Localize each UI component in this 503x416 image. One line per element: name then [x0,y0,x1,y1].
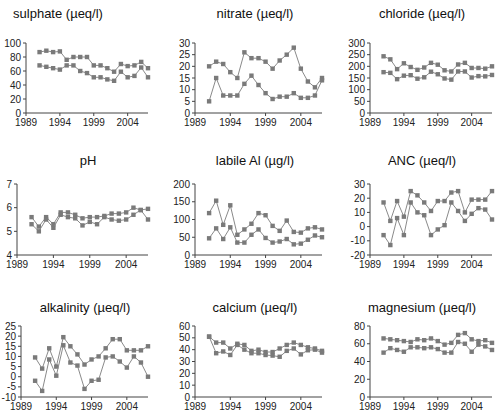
data-point-marker [442,350,446,354]
data-point-marker [442,342,446,346]
x-tick-label: 1989 [359,401,382,412]
data-point-marker [415,337,419,341]
axes: 0204060801989199419992004 [354,321,492,413]
data-point-marker [402,350,406,354]
data-point-marker [456,340,460,344]
data-point-marker [381,350,385,354]
data-point-marker [449,350,453,354]
data-point-marker [408,345,412,349]
data-point-marker [408,340,412,344]
data-point-marker [388,346,392,350]
x-tick-label: 1999 [427,401,450,412]
data-point-marker [395,348,399,352]
data-point-marker [483,338,487,342]
y-tick-label: 20 [354,374,366,385]
data-point-marker [436,347,440,351]
x-tick-label: 2004 [461,401,484,412]
y-tick-label: 80 [354,321,366,332]
y-tick-label: 40 [354,356,366,367]
data-point-marker [476,342,480,346]
line-chart-magnesium: 0204060801989199419992004 [0,0,503,416]
data-point-marker [429,345,433,349]
data-point-marker [469,350,473,354]
data-point-marker [422,346,426,350]
x-tick-label: 1994 [393,401,416,412]
data-point-marker [388,337,392,341]
data-point-marker [456,333,460,337]
data-point-marker [463,331,467,335]
y-tick-label: 60 [354,338,366,349]
data-point-marker [490,348,494,352]
data-point-marker [490,341,494,345]
data-point-marker [463,342,467,346]
data-point-marker [469,337,473,341]
data-point-marker [422,338,426,342]
data-point-marker [395,338,399,342]
data-point-marker [429,336,433,340]
data-point-marker [415,345,419,349]
data-point-marker [483,344,487,348]
data-point-marker [381,336,385,340]
data-point-marker [436,339,440,343]
data-point-marker [402,339,406,343]
data-point-marker [449,341,453,345]
